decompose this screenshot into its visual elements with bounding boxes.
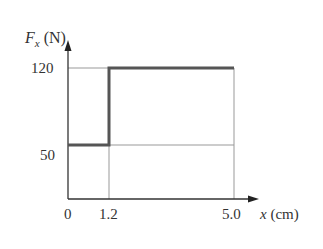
x-axis-label-var: x: [260, 206, 267, 222]
x-axis-arrow-icon: [248, 196, 259, 203]
force-step-line: [68, 68, 234, 145]
y-axis-label: Fx (N): [25, 30, 66, 46]
y-tick-120: 120: [31, 61, 54, 76]
x-axis-label: x (cm): [260, 207, 299, 222]
y-axis-label-unit: (N): [44, 29, 66, 46]
x-tick-5.0: 5.0: [222, 207, 241, 222]
x-axis-label-unit: (cm): [270, 206, 298, 222]
x-tick-1.2: 1.2: [99, 207, 118, 222]
y-tick-50: 50: [40, 148, 55, 163]
x-tick-0: 0: [64, 207, 72, 222]
y-axis-label-var: F: [25, 29, 35, 46]
y-axis-label-sub: x: [35, 37, 40, 49]
